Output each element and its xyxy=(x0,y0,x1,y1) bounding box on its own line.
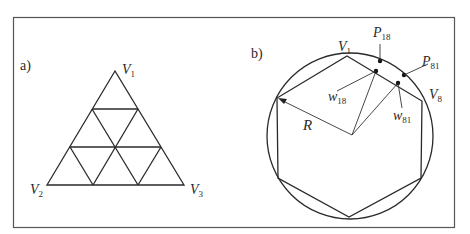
diag-line xyxy=(70,147,93,185)
vertex-label-v1: V1 xyxy=(122,62,135,79)
hexagon xyxy=(277,56,422,217)
circumscribed-circle xyxy=(267,53,433,219)
panel-a-label: a) xyxy=(20,58,31,74)
figure: a) V1 V2 V3 b) R xyxy=(0,0,470,234)
diag-line xyxy=(138,147,161,185)
panel-a: a) V1 V2 V3 xyxy=(20,58,204,199)
arrowhead-icon xyxy=(278,98,287,104)
leader-w18 xyxy=(337,71,376,91)
line-center-w18 xyxy=(352,71,376,135)
leader-w81 xyxy=(398,83,402,108)
point-label-p81: P81 xyxy=(421,54,440,71)
point-label-p18: P18 xyxy=(372,25,391,42)
radius-label: R xyxy=(302,117,312,133)
subdivided-triangle xyxy=(47,71,184,185)
point-label-w18: w18 xyxy=(328,89,347,106)
line-center-w81 xyxy=(352,83,398,135)
vertex-label-v1: V1 xyxy=(338,39,351,56)
vertex-label-v8: V8 xyxy=(429,87,443,104)
panel-b: b) R V1 V8 P18 P81 w18 w81 xyxy=(251,25,443,219)
vertex-label-v2: V2 xyxy=(30,182,43,199)
panel-b-label: b) xyxy=(251,46,263,62)
point-label-w81: w81 xyxy=(393,108,411,125)
outer-triangle xyxy=(47,71,184,185)
vertex-label-v3: V3 xyxy=(190,182,204,199)
